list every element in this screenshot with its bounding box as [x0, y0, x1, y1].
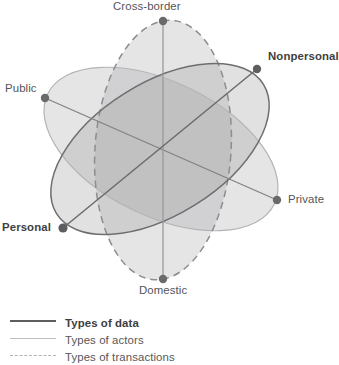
vertex-label-domestic: Domestic [139, 285, 187, 297]
legend-item-label: Types of actors [65, 334, 144, 346]
legend-item-types-of-data[interactable]: Types of data [10, 314, 139, 331]
vertex-label-public: Public [5, 83, 37, 95]
vertex-label-private: Private [288, 194, 324, 206]
vertex-label-cross-border: Cross-border [113, 1, 181, 13]
venn-diagram-canvas [0, 0, 333, 305]
legend-item-types-of-actors[interactable]: Types of actors [10, 331, 144, 348]
legend-item-label: Types of transactions [65, 351, 175, 363]
legend-item-types-of-transactions[interactable]: Types of transactions [10, 348, 175, 365]
vertex-dot-nonpersonal[interactable] [253, 65, 261, 73]
vertex-label-personal: Personal [2, 222, 51, 234]
legend-item-label: Types of data [65, 317, 139, 329]
vertex-label-nonpersonal: Nonpersonal [268, 51, 339, 63]
legend: Types of data Types of actors Types of t… [0, 305, 333, 359]
vertex-dot-private[interactable] [273, 196, 281, 204]
vertex-dot-cross-border[interactable] [159, 17, 167, 25]
vertex-dot-domestic[interactable] [159, 275, 167, 283]
vertex-dot-personal[interactable] [58, 223, 67, 232]
vertex-dot-public[interactable] [41, 94, 49, 102]
legend-line-dashed-icon [10, 355, 56, 359]
legend-line-solid-thin-icon [10, 338, 56, 342]
legend-line-solid-thick-icon [10, 320, 56, 325]
